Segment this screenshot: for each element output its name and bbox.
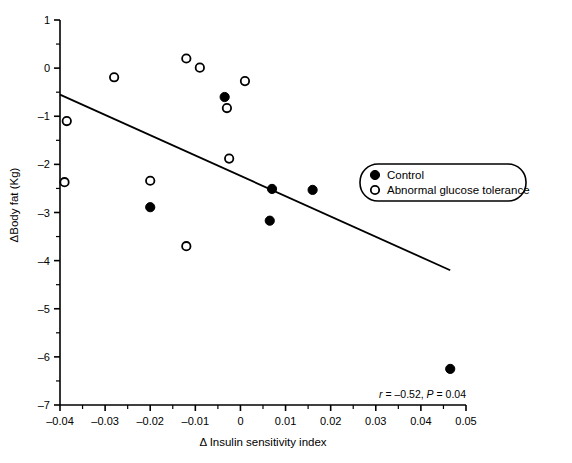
correlation-stats-annotation: r = –0.52, P = 0.04 [379,388,466,400]
legend-label-abnormal-glucose-tolerance: Abnormal glucose tolerance [387,184,530,196]
legend-marker-control [370,170,379,179]
y-tick-label: 0 [44,62,50,74]
p-symbol: P [427,388,434,400]
y-axis-title: ΔBody fat (Kg) [8,167,20,242]
data-point [63,117,71,125]
x-axis-tick-labels: –0.04–0.03–0.02–0.0100.010.020.030.040.0… [46,415,476,427]
data-point [265,216,274,225]
y-tick-label: –7 [38,399,50,411]
series-abnormal-glucose-tolerance-points [60,54,249,250]
data-point [225,154,233,162]
data-point [241,77,249,85]
p-value: = 0.04 [434,388,467,400]
series-control-points [146,92,455,373]
data-point [308,185,317,194]
y-tick-label: 1 [44,14,50,26]
y-tick-label: –5 [38,303,50,315]
x-tick-label: 0.01 [275,415,296,427]
x-tick-label: 0.04 [410,415,431,427]
legend-label-control: Control [387,169,424,181]
x-tick-label: –0.02 [136,415,164,427]
r-value: = –0.52, [383,388,427,400]
x-tick-label: –0.01 [182,415,210,427]
x-tick-label: 0.02 [320,415,341,427]
y-tick-label: –4 [38,255,50,267]
data-point [446,364,455,373]
x-tick-label: –0.04 [46,415,74,427]
x-tick-label: 0.05 [455,415,476,427]
y-tick-label: –3 [38,207,50,219]
x-tick-label: –0.03 [91,415,119,427]
legend[interactable]: Control Abnormal glucose tolerance [360,164,530,201]
data-point [110,73,118,81]
data-point [196,63,204,71]
y-axis-ticks [54,20,60,405]
axes-group [60,20,466,405]
y-tick-label: –2 [38,158,50,170]
data-point [146,177,154,185]
x-tick-label: 0 [237,415,243,427]
x-axis-title: Δ Insulin sensitivity index [199,436,326,448]
chart-canvas: 10–1–2–3–4–5–6–7 –0.04–0.03–0.02–0.0100.… [0,0,572,463]
data-point [267,184,276,193]
scatter-plot-figure: 10–1–2–3–4–5–6–7 –0.04–0.03–0.02–0.0100.… [0,0,572,463]
data-point [60,178,68,186]
data-point [182,242,190,250]
x-tick-label: 0.03 [365,415,386,427]
y-tick-label: –6 [38,351,50,363]
y-axis-tick-labels: 10–1–2–3–4–5–6–7 [38,14,50,411]
data-point [146,203,155,212]
data-point [223,104,231,112]
legend-marker-abnormal-glucose-tolerance [371,186,379,194]
x-axis-ticks [60,405,466,411]
y-tick-label: –1 [38,110,50,122]
data-point [220,92,229,101]
data-point [182,54,190,62]
